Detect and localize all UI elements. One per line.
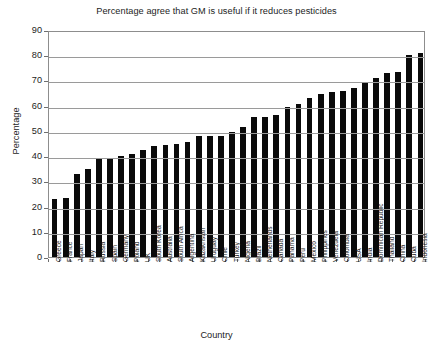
y-tick-label: 0 xyxy=(2,253,42,262)
x-category-label: Uruguay xyxy=(211,237,218,262)
y-tick-label: 20 xyxy=(2,203,42,212)
x-category-label: Poland xyxy=(134,241,141,262)
bar-series xyxy=(49,32,424,257)
x-axis-title: Country xyxy=(0,330,433,340)
y-tick-label: 90 xyxy=(2,26,42,35)
y-tick-label: 40 xyxy=(2,152,42,161)
y-tick-label: 10 xyxy=(2,228,42,237)
x-category-label: Philippines xyxy=(322,230,329,262)
y-tick-mark xyxy=(44,233,48,234)
bar xyxy=(240,127,246,257)
x-category-label: Nigeria xyxy=(245,241,252,262)
x-category-label: Dominican Republic xyxy=(378,203,385,262)
y-tick-mark xyxy=(44,208,48,209)
x-category-label: Cuba xyxy=(411,246,418,262)
x-category-label: Greece xyxy=(56,240,63,262)
gridline xyxy=(49,209,424,210)
bar xyxy=(85,169,91,257)
y-tick-mark xyxy=(44,157,48,158)
y-tick-label: 30 xyxy=(2,177,42,186)
x-category-label: Chile xyxy=(222,247,229,262)
x-category-label: Russia xyxy=(100,242,107,262)
bar xyxy=(273,115,279,258)
chart-title: Percentage agree that GM is useful if it… xyxy=(0,6,433,16)
y-tick-mark xyxy=(44,107,48,108)
x-category-label: Mexico xyxy=(311,241,318,262)
x-category-label: Italy xyxy=(89,250,96,262)
bar xyxy=(395,72,401,257)
bar-chart: Percentage agree that GM is useful if it… xyxy=(0,0,433,354)
bar xyxy=(140,150,146,257)
x-category-label: USA xyxy=(356,248,363,262)
x-category-label: Canada xyxy=(278,239,285,262)
bar xyxy=(340,91,346,257)
y-tick-label: 60 xyxy=(2,102,42,111)
bar xyxy=(218,136,224,257)
y-tick-label: 50 xyxy=(2,127,42,136)
bar xyxy=(406,55,412,257)
y-tick-mark xyxy=(44,132,48,133)
plot-area xyxy=(48,31,425,258)
gridline xyxy=(49,57,424,58)
y-tick-mark xyxy=(44,81,48,82)
x-category-label: Panama xyxy=(289,237,296,262)
x-category-label: Kazakhstan xyxy=(200,228,207,262)
x-category-label: China xyxy=(400,245,407,262)
x-category-label: Japan xyxy=(78,244,85,262)
x-category-label: Venezuela xyxy=(333,231,340,262)
gridline xyxy=(49,82,424,83)
x-category-label: India xyxy=(367,248,374,262)
x-category-label: Spain xyxy=(112,245,119,262)
x-category-label: South Korea xyxy=(156,225,163,262)
x-category-label: France xyxy=(67,241,74,262)
x-category-label: Thailand xyxy=(389,237,396,262)
y-tick-mark xyxy=(44,56,48,57)
y-tick-label: 80 xyxy=(2,51,42,60)
y-tick-mark xyxy=(44,31,48,32)
y-tick-label: 70 xyxy=(2,76,42,85)
x-category-label: Peru xyxy=(300,248,307,262)
bar xyxy=(229,132,235,257)
x-category-label: South Africa xyxy=(178,226,185,262)
x-tick-mark xyxy=(48,259,49,262)
x-category-label: Australia xyxy=(167,236,174,262)
y-tick-mark xyxy=(44,182,48,183)
x-category-label: Germany xyxy=(123,235,130,262)
x-category-label: Turkey xyxy=(234,242,241,262)
gridline xyxy=(49,158,424,159)
x-category-label: Colombia xyxy=(344,234,351,262)
gridline xyxy=(49,133,424,134)
gridline xyxy=(49,234,424,235)
x-category-label: Indonesia xyxy=(422,233,429,262)
bar xyxy=(362,83,368,257)
gridline xyxy=(49,183,424,184)
x-category-label: Argentina xyxy=(189,234,196,262)
x-category-label: Netherlands xyxy=(267,226,274,262)
bar xyxy=(351,88,357,257)
x-category-label: Brazil xyxy=(256,246,263,263)
x-category-label: UK xyxy=(145,253,152,262)
gridline xyxy=(49,108,424,109)
bar xyxy=(251,117,257,257)
bar xyxy=(384,73,390,257)
